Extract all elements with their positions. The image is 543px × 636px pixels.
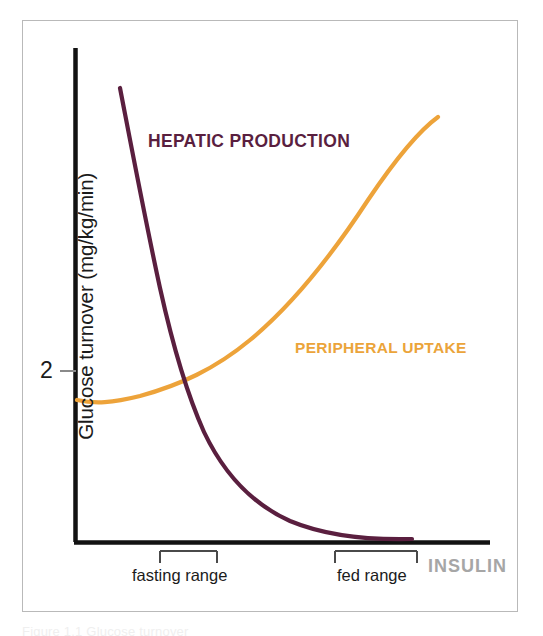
series-label-hepatic-production: HEPATIC PRODUCTION	[148, 133, 350, 151]
bracket-label-fasting-range: fasting range	[132, 567, 227, 584]
figure-root: Glucose turnover (mg/kg/min) 2 HEPATIC P…	[0, 0, 543, 636]
bracket-label-fed-range: fed range	[337, 567, 407, 584]
y-tick-label-2: 2	[40, 359, 53, 382]
y-axis-title: Glucose turnover (mg/kg/min)	[76, 156, 97, 456]
series-label-peripheral-uptake: PERIPHERAL UPTAKE	[295, 340, 467, 356]
figure-caption-partial: Figure 1.1 Glucose turnover	[22, 624, 518, 636]
x-axis-title: INSULIN	[428, 557, 507, 575]
